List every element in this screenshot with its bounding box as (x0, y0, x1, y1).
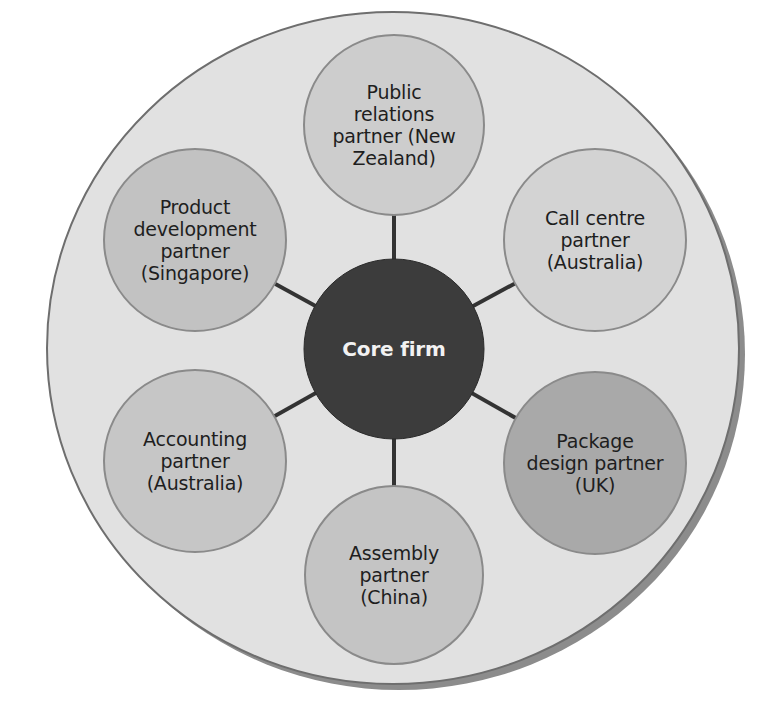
node-label-line: partner (359, 564, 428, 586)
node-label-line: (Singapore) (141, 262, 249, 284)
node-label-line: partner (160, 450, 229, 472)
node-label-line: partner (New (332, 125, 455, 147)
node-label-line: (Australia) (147, 472, 244, 494)
node-label-line: Product (160, 196, 231, 218)
core-firm-text: Core firm (342, 338, 445, 360)
node-label-line: relations (354, 103, 435, 125)
node-label-line: Assembly (349, 542, 439, 564)
node-label-line: partner (160, 240, 229, 262)
node-label-line: Package (556, 430, 633, 452)
network-diagram: Publicrelationspartner (NewZealand)Call … (0, 0, 782, 716)
node-label-line: design partner (527, 452, 664, 474)
node-label-product-development: Productdevelopmentpartner(Singapore) (104, 149, 286, 331)
node-label-line: (China) (360, 586, 428, 608)
node-label-line: Zealand) (352, 147, 435, 169)
core-firm-label: Core firm (304, 259, 484, 439)
node-label-line: Public (366, 81, 421, 103)
node-label-line: development (133, 218, 256, 240)
node-label-package-design: Packagedesign partner(UK) (504, 372, 686, 554)
node-label-call-centre: Call centrepartner(Australia) (504, 149, 686, 331)
node-label-public-relations: Publicrelationspartner (NewZealand) (304, 35, 484, 215)
node-label-assembly: Assemblypartner(China) (305, 486, 483, 664)
node-label-line: (Australia) (547, 251, 644, 273)
node-label-line: (UK) (575, 474, 615, 496)
node-label-line: Call centre (545, 207, 645, 229)
node-label-accounting: Accountingpartner(Australia) (104, 370, 286, 552)
node-label-line: partner (560, 229, 629, 251)
node-label-line: Accounting (143, 428, 247, 450)
